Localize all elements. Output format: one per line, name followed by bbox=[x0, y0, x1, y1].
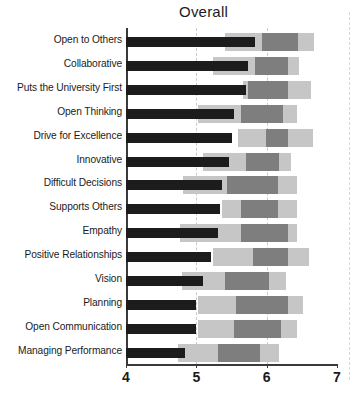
inner-range-segment bbox=[255, 57, 289, 75]
range-band bbox=[198, 296, 302, 314]
category-label: Open Communication bbox=[25, 321, 122, 332]
category-label: Open Thinking bbox=[57, 106, 122, 117]
mean-bar bbox=[126, 133, 232, 143]
bar-row: Drive for Excellence bbox=[0, 126, 361, 150]
bar-row: Open Communication bbox=[0, 317, 361, 341]
mean-bar bbox=[126, 228, 218, 238]
inner-range-segment bbox=[241, 224, 288, 242]
bar-row: Open to Others bbox=[0, 30, 361, 54]
category-label: Managing Performance bbox=[18, 345, 122, 356]
range-band bbox=[178, 344, 279, 362]
bar-row: Innovative bbox=[0, 150, 361, 174]
x-tick-label: 4 bbox=[122, 369, 130, 385]
mean-bar bbox=[126, 61, 248, 71]
inner-range-segment bbox=[246, 153, 279, 171]
bar-row: Collaborative bbox=[0, 54, 361, 78]
mean-bar bbox=[126, 324, 196, 334]
bar-row: Difficult Decisions bbox=[0, 173, 361, 197]
category-label: Innovative bbox=[77, 154, 122, 165]
mean-bar bbox=[126, 37, 255, 47]
category-label: Empathy bbox=[82, 225, 122, 236]
category-label: Vision bbox=[95, 273, 122, 284]
bar-row: Planning bbox=[0, 293, 361, 317]
inner-range-segment bbox=[234, 320, 281, 338]
mean-bar bbox=[126, 85, 246, 95]
inner-range-segment bbox=[227, 176, 278, 194]
category-label: Supports Others bbox=[49, 201, 122, 212]
inner-range-segment bbox=[236, 296, 289, 314]
inner-range-segment bbox=[253, 248, 287, 266]
inner-range-segment bbox=[225, 272, 269, 290]
bar-row: Open Thinking bbox=[0, 102, 361, 126]
range-band bbox=[213, 248, 309, 266]
range-band bbox=[243, 81, 311, 99]
category-label: Puts the University First bbox=[17, 82, 122, 93]
mean-bar bbox=[126, 348, 185, 358]
inner-range-segment bbox=[241, 105, 283, 123]
bar-row: Managing Performance bbox=[0, 341, 361, 365]
mean-bar bbox=[126, 157, 229, 167]
range-band bbox=[238, 129, 313, 147]
mean-bar bbox=[126, 180, 222, 190]
mean-bar bbox=[126, 252, 211, 262]
range-band bbox=[198, 320, 296, 338]
bar-row: Empathy bbox=[0, 221, 361, 245]
inner-range-segment bbox=[241, 200, 278, 218]
bar-row: Positive Relationships bbox=[0, 245, 361, 269]
chart-root: Overall 4567 Open to OthersCollaborative… bbox=[0, 0, 361, 406]
mean-bar bbox=[126, 276, 203, 286]
inner-range-segment bbox=[248, 81, 289, 99]
mean-bar bbox=[126, 300, 196, 310]
x-tick-label: 5 bbox=[192, 369, 200, 385]
bar-row: Supports Others bbox=[0, 197, 361, 221]
category-label: Planning bbox=[83, 297, 122, 308]
bar-row: Puts the University First bbox=[0, 78, 361, 102]
category-label: Positive Relationships bbox=[25, 249, 122, 260]
category-label: Drive for Excellence bbox=[33, 130, 122, 141]
mean-bar bbox=[126, 204, 220, 214]
inner-range-segment bbox=[266, 129, 288, 147]
bar-row: Vision bbox=[0, 269, 361, 293]
page-edge-line bbox=[349, 12, 351, 380]
range-band bbox=[222, 200, 297, 218]
inner-range-segment bbox=[218, 344, 260, 362]
x-tick-label: 7 bbox=[333, 369, 341, 385]
x-tick-label: 6 bbox=[263, 369, 271, 385]
inner-range-segment bbox=[262, 33, 297, 51]
category-label: Collaborative bbox=[64, 58, 122, 69]
mean-bar bbox=[126, 109, 234, 119]
chart-title: Overall bbox=[0, 3, 361, 20]
category-label: Difficult Decisions bbox=[44, 177, 122, 188]
category-label: Open to Others bbox=[54, 34, 122, 45]
